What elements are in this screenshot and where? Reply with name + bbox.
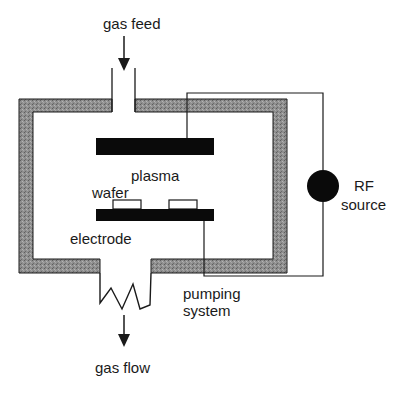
plasma-label: plasma <box>131 168 179 183</box>
top-electrode <box>96 138 214 155</box>
pumping-label: pumping <box>183 286 241 301</box>
gas-feed-label: gas feed <box>103 16 161 31</box>
source-label: source <box>341 197 386 212</box>
wafer-label: wafer <box>92 185 129 200</box>
gas-flow-label: gas flow <box>95 360 150 375</box>
system-label: system <box>183 303 231 318</box>
rf-wiring <box>187 93 323 276</box>
rf-source-icon <box>307 170 339 202</box>
bottom-electrode <box>96 209 214 221</box>
outlet-pump-zigzag <box>100 273 151 309</box>
gas-feed-arrow-icon <box>118 36 130 71</box>
chamber-wall <box>19 99 287 273</box>
electrode-label: electrode <box>70 231 132 246</box>
gas-flow-arrow-icon <box>118 315 130 347</box>
gas-inlet-pipe <box>112 68 135 112</box>
wafers <box>113 200 197 209</box>
rf-label: RF <box>354 178 374 193</box>
